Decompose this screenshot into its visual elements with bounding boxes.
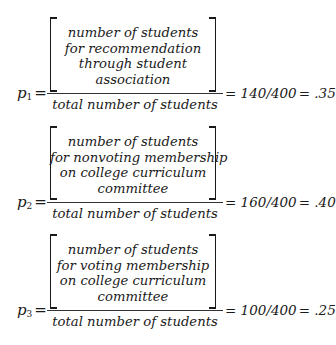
subscript: 3 [27, 309, 33, 319]
lhs: p3= [17, 301, 47, 319]
numerator-line: on college curriculum [50, 273, 216, 289]
numerator-line: for voting membership [50, 258, 216, 274]
equation-p3: number of students for voting membership… [0, 0, 336, 345]
numerator-line: number of students [50, 242, 216, 258]
denominator: total number of students [47, 314, 223, 329]
variable: p [17, 301, 27, 319]
equals-sign: = [225, 302, 236, 318]
equals-sign: = [34, 301, 47, 319]
equals-sign: = [299, 302, 310, 318]
fraction-bar [47, 310, 223, 311]
rhs: = 100/400= .25 [223, 302, 336, 318]
numerator-line: committee [50, 289, 216, 305]
ratio: 100/400 [241, 302, 297, 318]
result: .25 [314, 302, 335, 318]
numerator: number of students for voting membership… [50, 242, 216, 304]
